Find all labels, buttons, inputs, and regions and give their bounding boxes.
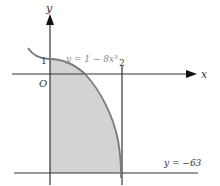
curve-equation-label: y = 1 − 8x³ [65,54,118,64]
x-axis-label: x [201,68,208,81]
tick-label-x-2: 2 [119,58,125,68]
x-axis-arrow-icon [186,70,197,78]
horizontal-line-label: y = −63 [163,158,202,168]
tick-label-y-1: 1 [41,56,47,66]
graph-canvas: y x O 1 2 y = 1 − 8x³ y = −63 [0,0,220,186]
origin-label: O [39,78,47,89]
y-axis-label: y [45,2,53,15]
y-axis-arrow-icon [46,14,54,25]
